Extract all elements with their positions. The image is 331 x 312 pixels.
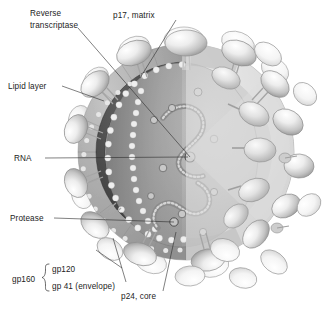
label-reverse-transcriptase: Reverse transcriptase (30, 9, 79, 30)
label-gp160: gp160 (12, 275, 36, 284)
label-p17-matrix: p17, matrix (113, 11, 155, 20)
label-gp120: gp120 (52, 265, 76, 274)
envelope-spike-gp120 (165, 30, 207, 56)
reverse-transcriptase-line1: Reverse (30, 9, 62, 18)
label-lipid-layer: Lipid layer (8, 82, 47, 91)
envelope-spike-gp120 (227, 265, 259, 291)
label-protease: Protease (10, 214, 44, 223)
envelope-spike-gp120 (256, 245, 292, 279)
label-p24-core: p24, core (121, 292, 156, 301)
envelope-spike-gp120 (293, 189, 326, 221)
label-gp41-envelope: gp 41 (envelope) (52, 282, 115, 291)
label-rna: RNA (14, 154, 32, 163)
envelope-spike-gp120 (289, 78, 322, 110)
hiv-virion-diagram: Reverse transcriptase p17, matrix Lipid … (0, 0, 331, 312)
gp160-group: gp160 gp120 gp 41 (envelope) (12, 264, 115, 291)
gp160-brace (42, 264, 49, 291)
diagram-canvas: Reverse transcriptase p17, matrix Lipid … (0, 0, 331, 312)
reverse-transcriptase-line2: transcriptase (30, 21, 79, 30)
